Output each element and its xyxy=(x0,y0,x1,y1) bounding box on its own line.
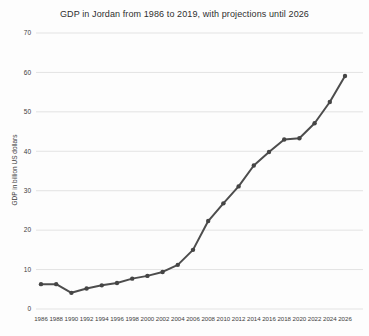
x-tick-label: 1986 xyxy=(34,315,48,322)
data-line xyxy=(41,76,345,293)
data-point xyxy=(297,136,301,140)
x-tick-label: 2002 xyxy=(156,315,170,322)
x-tick-label: 2024 xyxy=(323,315,337,322)
x-tick-label: 2026 xyxy=(338,315,352,322)
y-tick-label: 0 xyxy=(27,305,31,312)
data-point xyxy=(130,276,134,280)
x-tick-label: 1998 xyxy=(125,315,139,322)
x-tick-label: 2022 xyxy=(308,315,322,322)
y-tick-label: 50 xyxy=(24,108,32,115)
data-point xyxy=(69,291,73,295)
y-axis-title: GDP in billion US dollars xyxy=(11,134,18,205)
data-point xyxy=(221,201,225,205)
data-point xyxy=(206,219,210,223)
y-tick-label: 20 xyxy=(24,226,32,233)
gdp-line-chart: GDP in Jordan from 1986 to 2019, with pr… xyxy=(0,0,369,336)
plot-area: 0102030405060701986198819901992199419961… xyxy=(0,0,369,336)
chart-title: GDP in Jordan from 1986 to 2019, with pr… xyxy=(0,9,369,19)
data-point xyxy=(312,121,316,125)
data-point xyxy=(191,248,195,252)
data-point xyxy=(84,286,88,290)
data-point xyxy=(160,270,164,274)
data-point xyxy=(176,263,180,267)
x-tick-label: 2010 xyxy=(217,315,231,322)
x-tick-label: 1990 xyxy=(65,315,79,322)
y-tick-label: 60 xyxy=(24,69,32,76)
data-point xyxy=(328,100,332,104)
data-point xyxy=(145,274,149,278)
x-tick-label: 1994 xyxy=(95,315,109,322)
y-tick-label: 10 xyxy=(24,266,32,273)
data-point xyxy=(100,283,104,287)
data-point xyxy=(343,74,347,78)
x-tick-label: 1988 xyxy=(49,315,63,322)
x-tick-label: 1992 xyxy=(80,315,94,322)
data-point xyxy=(282,137,286,141)
data-point xyxy=(115,281,119,285)
x-tick-label: 2008 xyxy=(201,315,215,322)
x-tick-label: 2004 xyxy=(171,315,185,322)
x-tick-label: 2000 xyxy=(141,315,155,322)
data-point xyxy=(267,150,271,154)
x-tick-label: 2012 xyxy=(232,315,246,322)
x-tick-label: 1996 xyxy=(110,315,124,322)
data-point xyxy=(39,282,43,286)
y-tick-label: 70 xyxy=(24,29,32,36)
x-tick-label: 2018 xyxy=(277,315,291,322)
x-tick-label: 2006 xyxy=(186,315,200,322)
x-tick-label: 2014 xyxy=(247,315,261,322)
y-tick-label: 30 xyxy=(24,187,32,194)
x-tick-label: 2020 xyxy=(293,315,307,322)
y-tick-label: 40 xyxy=(24,148,32,155)
data-point xyxy=(236,184,240,188)
data-point xyxy=(54,282,58,286)
data-point xyxy=(252,163,256,167)
x-tick-label: 2016 xyxy=(262,315,276,322)
